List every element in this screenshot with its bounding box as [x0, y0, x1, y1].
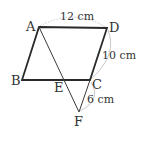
point-label-b: B: [11, 73, 21, 88]
measure-label-cf: 6 cm: [87, 93, 115, 106]
segment-af: [39, 27, 79, 112]
point-label-d: D: [109, 20, 119, 35]
point-label-c: C: [92, 77, 102, 92]
point-label-a: A: [25, 19, 36, 34]
measure-label-ad: 12 cm: [60, 10, 95, 23]
geometry-diagram: A D B E C F 12 cm 10 cm 6 cm: [0, 0, 142, 141]
point-label-f: F: [74, 114, 83, 129]
measure-label-dc: 10 cm: [102, 49, 137, 62]
parallelogram-abcd: [22, 27, 107, 80]
point-label-e: E: [54, 80, 64, 95]
